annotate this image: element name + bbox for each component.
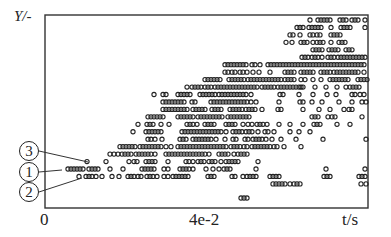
data-point — [253, 63, 257, 67]
data-point — [320, 100, 324, 104]
data-point — [348, 25, 352, 29]
data-point — [219, 159, 223, 163]
data-point — [249, 92, 253, 96]
data-point — [277, 122, 281, 126]
data-point — [334, 92, 338, 96]
data-point — [335, 85, 339, 89]
data-point — [121, 167, 125, 171]
data-point — [308, 130, 312, 134]
data-point — [311, 70, 315, 74]
data-point — [279, 137, 283, 141]
data-point — [212, 174, 216, 178]
data-point — [360, 115, 364, 119]
data-point — [298, 33, 302, 37]
data-point — [211, 167, 215, 171]
data-point — [254, 100, 258, 104]
data-point — [257, 70, 261, 74]
data-point — [244, 92, 248, 96]
data-point — [353, 92, 357, 96]
data-point — [321, 137, 325, 141]
data-point — [253, 107, 257, 111]
data-point — [350, 48, 354, 52]
data-point — [245, 145, 249, 149]
data-point — [108, 167, 112, 171]
data-point — [139, 174, 143, 178]
data-point — [357, 85, 361, 89]
data-point — [346, 78, 350, 82]
data-point — [350, 107, 354, 111]
data-point — [363, 55, 367, 59]
data-point — [104, 159, 108, 163]
data-point — [356, 18, 360, 22]
data-point — [96, 167, 100, 171]
data-point — [213, 159, 217, 163]
data-point — [245, 196, 249, 200]
data-point — [164, 145, 168, 149]
data-point — [244, 63, 248, 67]
data-point — [226, 152, 230, 156]
data-point — [363, 174, 367, 178]
data-point — [277, 100, 281, 104]
data-point — [133, 145, 137, 149]
data-point — [311, 92, 315, 96]
data-point — [277, 174, 281, 178]
data-point — [110, 174, 114, 178]
data-point — [301, 25, 305, 29]
x-tick-0: 0 — [40, 210, 49, 230]
data-point — [250, 130, 254, 134]
data-point — [268, 70, 272, 74]
data-point — [224, 145, 228, 149]
data-point — [292, 78, 296, 82]
data-point — [356, 70, 360, 74]
data-point — [319, 78, 323, 82]
data-point — [234, 137, 238, 141]
data-point — [166, 159, 170, 163]
callout-line — [39, 151, 88, 162]
data-point — [188, 92, 192, 96]
x-axis-label: t/s — [342, 210, 358, 230]
data-point — [164, 92, 168, 96]
data-point — [266, 130, 270, 134]
callout-1: 1 — [19, 162, 39, 182]
data-point — [256, 159, 260, 163]
data-point — [319, 25, 323, 29]
data-point — [161, 115, 165, 119]
data-point — [305, 40, 309, 44]
data-point — [217, 167, 221, 171]
data-point — [344, 18, 348, 22]
data-point — [219, 107, 223, 111]
data-point — [182, 100, 186, 104]
data-point — [318, 122, 322, 126]
data-point — [135, 159, 139, 163]
data-point — [324, 167, 328, 171]
data-point — [318, 33, 322, 37]
data-point — [328, 18, 332, 22]
data-point — [191, 115, 195, 119]
data-point — [255, 85, 259, 89]
data-point — [310, 100, 314, 104]
data-point — [254, 167, 258, 171]
data-point — [348, 122, 352, 126]
data-point — [129, 152, 133, 156]
data-point — [324, 85, 328, 89]
data-point — [282, 145, 286, 149]
data-point — [270, 137, 274, 141]
data-point — [301, 122, 305, 126]
data-point — [308, 18, 312, 22]
data-point — [258, 63, 262, 67]
data-point — [297, 92, 301, 96]
data-point — [283, 182, 287, 186]
data-point — [203, 107, 207, 111]
data-point — [359, 182, 363, 186]
data-point — [159, 130, 163, 134]
callout-line — [39, 170, 62, 172]
data-point — [169, 145, 173, 149]
data-point — [212, 122, 216, 126]
data-point — [209, 137, 213, 141]
data-point — [281, 92, 285, 96]
data-point — [343, 40, 347, 44]
data-point — [328, 107, 332, 111]
data-point — [159, 145, 163, 149]
data-point — [313, 85, 317, 89]
data-point — [186, 174, 190, 178]
